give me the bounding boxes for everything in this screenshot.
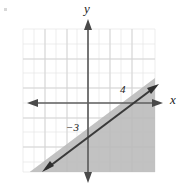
y-axis-label: y: [84, 2, 90, 15]
graph-figure: y x 4 −3: [0, 0, 182, 189]
coordinate-plane-svg: [0, 0, 182, 189]
x-intercept-label: 4: [120, 84, 126, 95]
x-axis-right-arrow: [152, 99, 163, 107]
y-axis-down-arrow: [84, 172, 92, 183]
x-axis-left-arrow: [27, 99, 38, 107]
y-axis-up-arrow: [84, 19, 92, 30]
x-axis-label: x: [170, 93, 176, 106]
y-intercept-label: −3: [66, 122, 79, 133]
